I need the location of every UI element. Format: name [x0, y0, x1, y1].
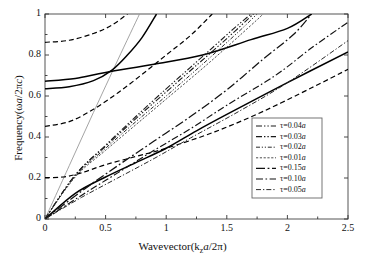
- legend-label-3: τ=0.01a: [280, 153, 306, 162]
- legend-label-0: τ=0.04a: [280, 121, 306, 130]
- x-tick-label: 2: [277, 222, 297, 233]
- y-tick-label: 1: [15, 7, 41, 18]
- y-tick-label: 0.6: [15, 89, 41, 100]
- legend-label-1: τ=0.03a: [280, 132, 306, 141]
- x-axis-label: Wavevector(kza/2π): [0, 240, 365, 255]
- x-tick-label: 1: [156, 222, 176, 233]
- legend-label-6: τ=0.05a: [280, 185, 306, 194]
- y-tick-label: 0.2: [15, 171, 41, 182]
- x-tick-label: 1.5: [217, 222, 237, 233]
- x-tick-label: 0.5: [96, 222, 116, 233]
- y-tick-label: 0.8: [15, 48, 41, 59]
- legend-label-5: τ=0.10a: [280, 174, 306, 183]
- y-tick-label: 0.4: [15, 130, 41, 141]
- y-tick-label: 0: [15, 212, 41, 223]
- x-tick-label: 0: [35, 222, 55, 233]
- legend-label-2: τ=0.02a: [280, 142, 306, 151]
- x-tick-label: 2.5: [338, 222, 358, 233]
- legend-label-4: τ=0.15a: [280, 163, 306, 172]
